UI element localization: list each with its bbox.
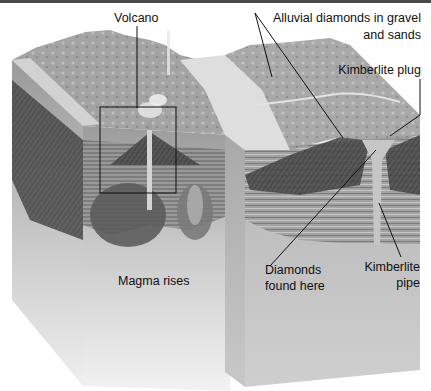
label-magma-rises: Magma rises <box>118 273 190 289</box>
label-kimberlite-plug: Kimberlite plug <box>338 62 421 78</box>
label-pipe-line1: Kimberlite <box>364 259 420 275</box>
right-block-side-face <box>225 135 245 387</box>
label-alluvial-line1: Alluvial diamonds in gravel <box>273 10 421 26</box>
label-volcano: Volcano <box>114 10 158 26</box>
label-alluvial-line2: and sands <box>363 27 421 43</box>
label-pipe-line2: pipe <box>396 275 420 291</box>
geology-illustration <box>0 0 431 391</box>
label-diamonds-line1: Diamonds <box>265 262 321 278</box>
label-diamonds-line2: found here <box>265 278 325 294</box>
